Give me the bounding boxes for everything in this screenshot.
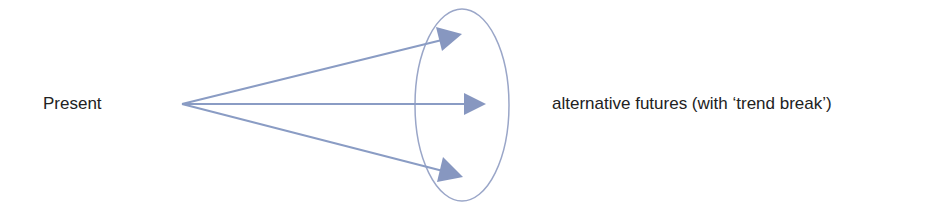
arrow-bottom — [182, 104, 463, 182]
arrow-bottom-head-icon — [437, 157, 463, 182]
arrow-bottom-line — [182, 104, 443, 171]
arrow-top — [182, 27, 462, 104]
arrow-top-head-icon — [436, 27, 462, 51]
arrow-middle-head-icon — [464, 93, 486, 115]
arrow-top-line — [182, 40, 442, 104]
arrow-middle — [182, 93, 486, 115]
alternative-futures-label: alternative futures (with ‘trend break’) — [552, 94, 832, 114]
